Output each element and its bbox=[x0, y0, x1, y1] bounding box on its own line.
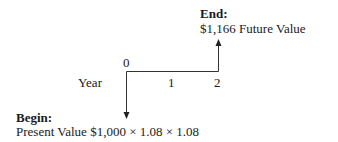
tick-year-2: 2 bbox=[214, 76, 221, 90]
tick-year-1: 1 bbox=[168, 76, 175, 90]
present-value-text: Present Value $1,000 × 1.08 × 1.08 bbox=[16, 125, 199, 139]
year-axis-label: Year bbox=[78, 76, 102, 90]
begin-label: Begin: bbox=[16, 111, 52, 125]
future-value-text: $1,166 Future Value bbox=[200, 22, 306, 36]
up-arrow-icon bbox=[216, 39, 222, 46]
tick-year-0: 0 bbox=[123, 56, 130, 70]
down-arrow-icon bbox=[124, 112, 130, 119]
end-label: End: bbox=[200, 7, 227, 21]
